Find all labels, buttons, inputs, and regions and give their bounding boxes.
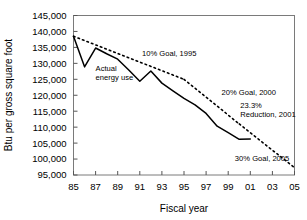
annotation-line: energy use — [96, 73, 134, 82]
x-tick-label: 05 — [289, 181, 300, 192]
x-tick-label: 99 — [223, 181, 234, 192]
annotation-line: 23.3% — [240, 101, 262, 110]
y-tick-label: 140,000 — [32, 26, 66, 37]
x-tick-label: 03 — [267, 181, 278, 192]
energy-use-line-chart: 95,000100,000105,000110,000115,000120,00… — [0, 0, 307, 220]
y-axis-tick-labels: 95,000100,000105,000110,000115,000120,00… — [32, 10, 66, 181]
y-tick-label: 135,000 — [32, 42, 66, 53]
annotation-goal-10-percent: 10% Goal, 1995 — [142, 49, 196, 58]
y-tick-label: 125,000 — [32, 74, 66, 85]
x-tick-label: 95 — [179, 181, 190, 192]
annotation-line: Reduction, 2001 — [240, 110, 295, 119]
annotation-line: 20% Goal, 2000 — [222, 88, 276, 97]
x-tick-label: 93 — [157, 181, 168, 192]
annotation-goal-30-percent: 30% Goal, 2005 — [235, 154, 289, 163]
chart-container: 95,000100,000105,000110,000115,000120,00… — [0, 0, 307, 220]
x-tick-label: 01 — [245, 181, 256, 192]
x-tick-label: 85 — [68, 181, 79, 192]
x-axis-title: Fiscal year — [160, 203, 209, 214]
y-tick-label: 100,000 — [32, 153, 66, 164]
annotation-line: 30% Goal, 2005 — [235, 154, 289, 163]
annotation-goal-20-percent: 20% Goal, 2000 — [222, 88, 276, 97]
annotation-line: 10% Goal, 1995 — [142, 49, 196, 58]
y-tick-label: 105,000 — [32, 138, 66, 149]
x-tick-label: 97 — [201, 181, 212, 192]
x-tick-label: 89 — [112, 181, 123, 192]
y-tick-label: 130,000 — [32, 58, 66, 69]
y-tick-label: 95,000 — [37, 169, 66, 180]
annotation-line: Actual — [96, 64, 117, 73]
y-tick-label: 120,000 — [32, 90, 66, 101]
y-axis-title: Btu per gross square foot — [3, 39, 14, 152]
y-tick-label: 115,000 — [33, 106, 67, 117]
x-tick-label: 91 — [135, 181, 146, 192]
y-tick-label: 145,000 — [32, 10, 66, 21]
y-tick-label: 110,000 — [33, 122, 67, 133]
x-tick-label: 87 — [90, 181, 101, 192]
